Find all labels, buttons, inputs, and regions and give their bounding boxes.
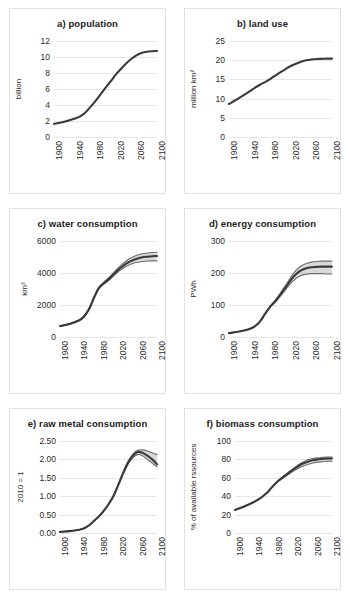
y-tick-label: 2.00: [39, 454, 56, 464]
gridline-y: [54, 137, 157, 138]
y-tick-label: 200: [211, 268, 225, 278]
y-tick-label: 8: [45, 68, 50, 78]
series-main-line: [235, 458, 332, 510]
y-tick-label: 0: [220, 132, 225, 142]
plot-area-e: 0.000.501.001.502.002.501900194019802020…: [60, 441, 157, 533]
x-tick-label: 1900: [54, 141, 64, 160]
y-tick-label: 6000: [37, 236, 56, 246]
y-tick-label: 1.00: [39, 491, 56, 501]
x-tick-label: 1900: [229, 341, 239, 360]
y-tick-label: 100: [217, 436, 231, 446]
y-tick-label: 10: [41, 52, 50, 62]
y-tick-label: 20: [222, 510, 231, 520]
y-tick-label: 0: [45, 132, 50, 142]
panel-slot-d: d) energy consumption0100200300190019401…: [175, 200, 350, 400]
x-tick-label: 2100: [332, 341, 342, 360]
chart-panel-e: e) raw metal consumption0.000.501.001.50…: [9, 408, 166, 590]
x-tick-label: 1900: [60, 341, 70, 360]
y-tick-label: 0: [226, 528, 231, 538]
series-lower-bound: [60, 455, 157, 532]
x-tick-label: 1900: [235, 537, 245, 556]
y-tick-label: 2: [45, 116, 50, 126]
x-tick-label: 1980: [270, 341, 280, 360]
uncertainty-band: [229, 261, 332, 333]
panel-title-f: f) biomass consumption: [185, 419, 340, 429]
x-tick-label: 2100: [157, 141, 167, 160]
y-axis-label-d: PWh: [189, 280, 198, 297]
plot-area-d: 0100200300190019401980202020602100PWh: [229, 241, 332, 337]
y-tick-label: 15: [216, 74, 225, 84]
x-tick-label: 2060: [313, 537, 323, 556]
y-tick-label: 4000: [37, 268, 56, 278]
y-tick-label: 80: [222, 454, 231, 464]
y-tick-label: 40: [222, 491, 231, 501]
panel-slot-a: a) population024681012190019401980202020…: [0, 0, 175, 200]
series-plot-a: [54, 41, 157, 137]
y-axis-label-a: billion: [14, 79, 23, 99]
panel-title-a: a) population: [10, 19, 165, 29]
x-tick-label: 1980: [99, 341, 109, 360]
series-main-line: [60, 452, 157, 532]
panel-title-c: c) water consumption: [10, 219, 165, 229]
panel-title-b: b) land use: [185, 19, 340, 29]
x-tick-label: 2060: [138, 341, 148, 360]
series-plot-e: [60, 441, 157, 533]
panel-slot-c: c) water consumption02000400060001900194…: [0, 200, 175, 400]
chart-panel-d: d) energy consumption0100200300190019401…: [184, 208, 341, 394]
gridline-y: [60, 337, 157, 338]
y-tick-label: 2000: [37, 300, 56, 310]
gridline-y: [60, 533, 157, 534]
x-tick-label: 1940: [254, 537, 264, 556]
x-tick-label: 2060: [138, 537, 148, 556]
x-tick-label: 1940: [79, 537, 89, 556]
series-plot-b: [229, 41, 332, 137]
chart-panel-f: f) biomass consumption020406080100190019…: [184, 408, 341, 590]
y-axis-label-b: million km²: [189, 70, 198, 108]
x-tick-label: 2100: [332, 141, 342, 160]
x-tick-label: 1980: [99, 537, 109, 556]
x-tick-label: 2020: [291, 341, 301, 360]
series-upper-bound: [235, 457, 332, 510]
x-tick-label: 2060: [311, 341, 321, 360]
chart-panel-a: a) population024681012190019401980202020…: [9, 8, 166, 194]
x-tick-label: 2020: [116, 141, 126, 160]
x-tick-label: 2020: [118, 341, 128, 360]
y-tick-label: 0: [51, 332, 56, 342]
x-tick-label: 2100: [157, 537, 167, 556]
uncertainty-band: [60, 450, 157, 532]
x-tick-label: 1900: [229, 141, 239, 160]
series-plot-c: [60, 241, 157, 337]
panel-slot-e: e) raw metal consumption0.000.501.001.50…: [0, 400, 175, 596]
y-tick-label: 5: [220, 113, 225, 123]
gridline-y: [235, 533, 332, 534]
x-tick-label: 1980: [274, 537, 284, 556]
uncertainty-band: [235, 457, 332, 510]
y-tick-label: 10: [216, 94, 225, 104]
y-tick-label: 12: [41, 36, 50, 46]
x-tick-label: 2060: [311, 141, 321, 160]
plot-area-f: 020406080100190019401980202020602100% of…: [235, 441, 332, 533]
y-tick-label: 60: [222, 473, 231, 483]
x-tick-label: 1940: [250, 341, 260, 360]
y-tick-label: 2.50: [39, 436, 56, 446]
y-tick-label: 0.00: [39, 528, 56, 538]
x-tick-label: 1940: [79, 341, 89, 360]
series-plot-d: [229, 241, 332, 337]
series-plot-f: [235, 441, 332, 533]
x-tick-label: 1940: [250, 141, 260, 160]
series-lower-bound: [235, 461, 332, 510]
series-main-line: [229, 267, 332, 334]
y-tick-label: 25: [216, 36, 225, 46]
panel-slot-b: b) land use05101520251900194019802020206…: [175, 0, 350, 200]
chart-panel-b: b) land use05101520251900194019802020206…: [184, 8, 341, 194]
x-tick-label: 1980: [95, 141, 105, 160]
y-tick-label: 0.50: [39, 510, 56, 520]
y-tick-label: 20: [216, 55, 225, 65]
y-tick-label: 4: [45, 100, 50, 110]
x-tick-label: 2100: [157, 341, 167, 360]
y-tick-label: 1.50: [39, 473, 56, 483]
series-main-line: [229, 59, 332, 104]
y-tick-label: 100: [211, 300, 225, 310]
plot-area-b: 0510152025190019401980202020602100millio…: [229, 41, 332, 137]
x-tick-label: 2100: [332, 537, 342, 556]
